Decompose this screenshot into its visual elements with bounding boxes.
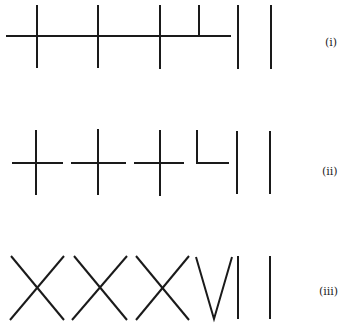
row-label-i: (i) — [325, 36, 337, 49]
row-ii-figure — [12, 129, 270, 196]
row-iii-figure — [10, 256, 270, 320]
row-i-figure — [6, 5, 271, 69]
diagram — [0, 0, 340, 329]
row-label-iii: (iii) — [319, 285, 338, 298]
row-label-ii: (ii) — [322, 165, 338, 178]
